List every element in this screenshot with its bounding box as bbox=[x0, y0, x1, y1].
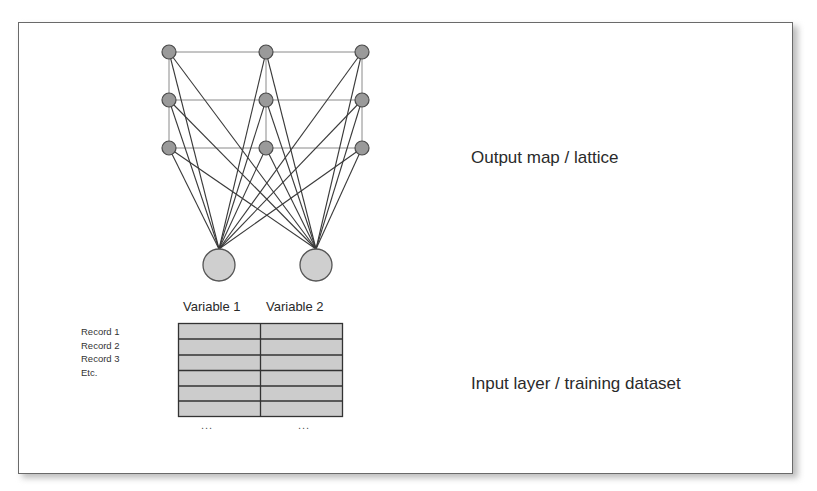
input-node-variable-2 bbox=[300, 249, 332, 281]
variable-2-label: Variable 2 bbox=[266, 299, 324, 314]
output-node bbox=[162, 141, 176, 155]
input-nodes bbox=[203, 249, 332, 281]
record-2-label: Record 2 bbox=[81, 339, 120, 353]
input-node-variable-1 bbox=[203, 249, 235, 281]
output-node bbox=[259, 45, 273, 59]
output-node bbox=[259, 93, 273, 107]
record-1-label: Record 1 bbox=[81, 325, 120, 339]
variable-1-label: Variable 1 bbox=[183, 299, 241, 314]
output-node bbox=[162, 93, 176, 107]
ellipsis-column-2: ... bbox=[298, 419, 310, 431]
output-map-label: Output map / lattice bbox=[471, 148, 618, 168]
output-node bbox=[355, 93, 369, 107]
network-diagram bbox=[0, 0, 817, 491]
record-etc-label: Etc. bbox=[81, 366, 97, 380]
record-3-label: Record 3 bbox=[81, 352, 120, 366]
output-node bbox=[355, 45, 369, 59]
output-node bbox=[259, 141, 273, 155]
output-node bbox=[162, 45, 176, 59]
output-node bbox=[355, 141, 369, 155]
dataset-table bbox=[179, 324, 343, 417]
ellipsis-column-1: ... bbox=[201, 419, 213, 431]
input-layer-label: Input layer / training dataset bbox=[471, 374, 681, 394]
